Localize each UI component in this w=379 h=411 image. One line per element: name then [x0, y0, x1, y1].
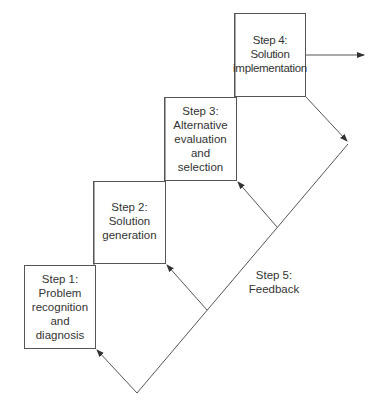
step1-line: Step 1:	[32, 272, 88, 286]
step3-line: evaluation	[173, 132, 227, 146]
step3-line: selection	[173, 160, 227, 174]
step2-box: Step 2: Solution generation	[93, 200, 166, 242]
step1-box: Step 1: Problem recognition and diagnosi…	[24, 272, 96, 342]
step2-line: Step 2:	[102, 200, 156, 214]
step4-line: implementation	[233, 61, 307, 75]
step3-box: Step 3: Alternative evaluation and selec…	[164, 104, 237, 174]
step2-line: generation	[102, 228, 156, 242]
step3-line: and	[173, 146, 227, 160]
feedback-label: Step 5: Feedback	[244, 268, 304, 296]
step2-line: Solution	[102, 214, 156, 228]
decision-process-diagram: Step 1: Problem recognition and diagnosi…	[0, 0, 379, 411]
step1-line: Problem	[32, 286, 88, 300]
connector-lines	[0, 0, 379, 411]
step1-line: and	[32, 314, 88, 328]
step4-box: Step 4: Solution implementation	[230, 33, 310, 75]
step4-line: Step 4:	[233, 33, 307, 47]
step3-line: Alternative	[173, 118, 227, 132]
feedback-line	[137, 144, 348, 393]
feedback-line-text: Feedback	[244, 282, 304, 296]
step3-line: Step 3:	[173, 104, 227, 118]
step1-line: diagnosis	[32, 328, 88, 342]
step1-line: recognition	[32, 300, 88, 314]
step4-line: Solution	[233, 47, 307, 61]
feedback-line-text: Step 5:	[244, 268, 304, 282]
